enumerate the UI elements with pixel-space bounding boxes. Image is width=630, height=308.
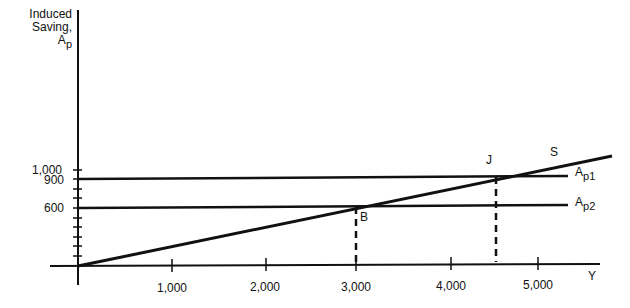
- x-tick-1000: 1,000: [157, 282, 187, 295]
- x-axis-label: Y: [588, 270, 596, 283]
- ap1-label: Ap1: [575, 166, 595, 179]
- chart-canvas: [0, 0, 630, 308]
- s-label: S: [550, 146, 558, 159]
- y-axis-label: Induced Saving, Ap: [0, 8, 72, 47]
- ap2-label: Ap2: [575, 196, 595, 209]
- y-tick-900: 900: [44, 174, 64, 187]
- y-tick-600: 600: [44, 202, 64, 215]
- point-b-label: B: [360, 211, 368, 224]
- point-j-label: J: [486, 154, 492, 167]
- x-tick-3000: 3,000: [341, 281, 371, 294]
- x-tick-2000: 2,000: [250, 281, 280, 294]
- saving-line-s: [78, 156, 612, 266]
- ap2-line: [78, 205, 568, 208]
- x-axis: [50, 264, 600, 266]
- ap1-line: [78, 176, 568, 179]
- x-tick-5000: 5,000: [523, 279, 553, 292]
- x-tick-4000: 4,000: [436, 280, 466, 293]
